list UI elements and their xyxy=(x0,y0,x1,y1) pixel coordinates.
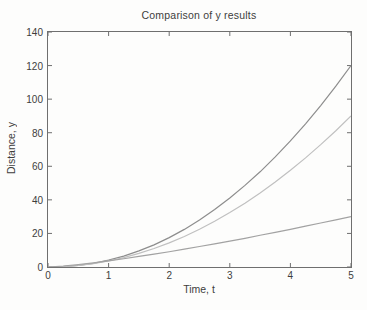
x-tick-label: 3 xyxy=(227,270,233,281)
x-tick-label: 2 xyxy=(166,270,172,281)
matlab-figure: Comparison of y results Distance, y 0204… xyxy=(0,0,367,310)
y-tick-label: 100 xyxy=(0,94,43,105)
y-tick-label: 40 xyxy=(0,194,43,205)
upper-curve xyxy=(48,66,351,267)
x-tick-label: 0 xyxy=(45,270,51,281)
x-tick-label: 4 xyxy=(288,270,294,281)
y-tick-label: 80 xyxy=(0,127,43,138)
lower-curve xyxy=(48,217,351,267)
y-tick-labels: 020406080100120140 xyxy=(0,31,43,268)
plot-svg xyxy=(48,32,351,267)
y-tick-label: 60 xyxy=(0,161,43,172)
x-tick-label: 1 xyxy=(106,270,112,281)
y-tick-label: 20 xyxy=(0,228,43,239)
plot-area xyxy=(47,31,352,268)
chart-title: Comparison of y results xyxy=(47,9,351,21)
middle-curve xyxy=(48,116,351,267)
x-axis-label: Time, t xyxy=(47,283,351,295)
x-tick-labels: 012345 xyxy=(47,270,352,282)
y-tick-label: 140 xyxy=(0,27,43,38)
x-tick-label: 5 xyxy=(348,270,354,281)
y-tick-label: 0 xyxy=(0,262,43,273)
y-tick-label: 120 xyxy=(0,60,43,71)
